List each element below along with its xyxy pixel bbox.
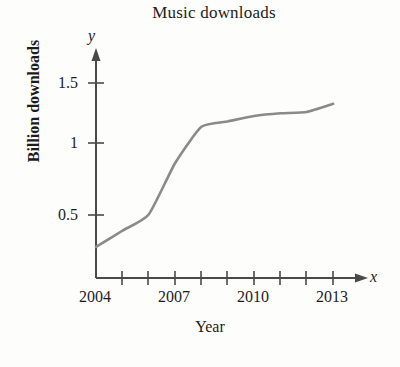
chart-plot-svg bbox=[0, 0, 400, 367]
chart-figure: Music downloads Billion downloads Year y… bbox=[0, 0, 400, 367]
y-axis-arrowhead bbox=[92, 48, 101, 61]
axes-group bbox=[88, 48, 368, 285]
x-axis-arrowhead bbox=[355, 274, 368, 283]
data-series-line bbox=[96, 104, 333, 247]
